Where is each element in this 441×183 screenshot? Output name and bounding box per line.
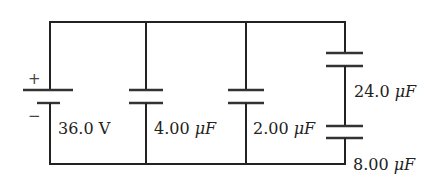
- battery-plus-sign: +: [28, 70, 41, 88]
- capacitor-24uF: [326, 21, 363, 126]
- capacitor-2uF-label: 2.00 μF: [253, 119, 316, 138]
- battery: [23, 21, 73, 165]
- capacitor-8uF-label: 8.00 μF: [353, 155, 416, 174]
- capacitor-4uF: [129, 22, 163, 164]
- battery-voltage-label: 36.0 V: [58, 119, 111, 138]
- circuit-svg: + − 36.0 V 4.00 μF 2.00 μF 24.0 μF 8.00 …: [0, 0, 441, 183]
- capacitor-2uF: [228, 22, 264, 164]
- capacitor-24uF-label: 24.0 μF: [354, 82, 417, 101]
- capacitor-4uF-label: 4.00 μF: [154, 119, 217, 138]
- battery-minus-sign: −: [28, 107, 41, 125]
- circuit-diagram: + − 36.0 V 4.00 μF 2.00 μF 24.0 μF 8.00 …: [0, 0, 441, 183]
